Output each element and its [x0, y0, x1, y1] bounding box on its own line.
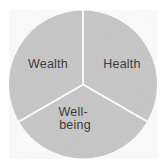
slice-label-health: Health [103, 57, 140, 71]
slice-label-wealth: Wealth [28, 57, 68, 71]
slice-label-well-being-line2: being [59, 118, 91, 132]
pie-chart-figure: Wealth Health Well- being [0, 0, 164, 166]
pie-chart-svg: Wealth Health Well- being [0, 0, 164, 166]
slice-label-well-being: Well- being [59, 105, 92, 132]
grain-texture [9, 11, 157, 159]
